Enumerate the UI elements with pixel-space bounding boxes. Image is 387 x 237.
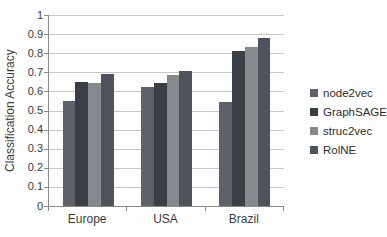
bar-node2vec-USA [141,87,154,206]
x-category-label: USA [126,212,204,226]
y-tick-label: 0.2 [11,161,43,174]
x-category-label: Europe [48,212,126,226]
y-tick-label: 0.7 [11,66,43,79]
legend-label: GraphSAGE [323,106,387,118]
x-tick-mark [126,207,127,211]
y-tick-label: 0.5 [11,104,43,117]
gridline [49,15,284,16]
legend-swatch-icon [310,127,318,135]
y-tick-label: 0.4 [11,123,43,136]
legend-swatch-icon [310,108,318,116]
x-tick-mark [283,207,284,211]
x-category-label: Brazil [205,212,283,226]
y-tick-label: 0.8 [11,47,43,60]
y-tick-label: 0.9 [11,28,43,41]
bar-RolNE-Europe [101,74,114,206]
bar-struc2vec-Brazil [245,47,258,206]
bar-RolNE-USA [179,71,192,206]
gridline [49,34,284,35]
bar-node2vec-Europe [63,101,76,206]
legend-item-RolNE: RolNE [310,140,387,159]
bar-struc2vec-Europe [88,83,101,206]
legend-item-GraphSAGE: GraphSAGE [310,102,387,121]
x-tick-mark [48,207,49,211]
x-tick-mark [205,207,206,211]
legend-item-node2vec: node2vec [310,83,387,102]
y-tick-label: 0 [11,200,43,213]
y-tick-label: 0.3 [11,142,43,155]
bar-struc2vec-USA [167,75,180,206]
bar-GraphSAGE-Brazil [232,51,245,206]
y-tick-label: 1 [11,9,43,22]
bar-GraphSAGE-Europe [75,82,88,206]
y-tick-label: 0.6 [11,85,43,98]
bar-GraphSAGE-USA [154,83,167,206]
plot-area [48,15,284,207]
legend-label: struc2vec [323,125,372,137]
legend-swatch-icon [310,89,318,97]
legend: node2vecGraphSAGEstruc2vecRolNE [310,83,387,159]
bar-node2vec-Brazil [219,102,232,206]
y-tick-label: 0.1 [11,180,43,193]
legend-label: node2vec [323,87,373,99]
legend-swatch-icon [310,146,318,154]
legend-item-struc2vec: struc2vec [310,121,387,140]
bar-RolNE-Brazil [258,38,271,206]
legend-label: RolNE [323,144,356,156]
